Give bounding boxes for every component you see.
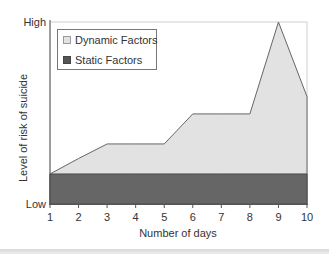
x-tick-label: 8 (247, 211, 253, 223)
legend: Dynamic Factors Static Factors (58, 30, 159, 70)
legend-label-static: Static Factors (75, 54, 143, 66)
legend-swatch-dynamic (64, 37, 71, 44)
risk-chart: 12345678910 High Low Number of days Leve… (0, 0, 329, 254)
x-tick-label: 7 (218, 211, 224, 223)
x-axis-label: Number of days (139, 227, 217, 239)
legend-label-dynamic: Dynamic Factors (75, 34, 158, 46)
y-tick-low: Low (26, 198, 46, 210)
x-tick-labels: 12345678910 (47, 211, 313, 223)
y-tick-high: High (23, 16, 46, 28)
static-factors-area (50, 174, 307, 204)
x-tick-label: 10 (301, 211, 313, 223)
x-tick-label: 2 (75, 211, 81, 223)
x-tick-label: 6 (190, 211, 196, 223)
x-tick-label: 1 (47, 211, 53, 223)
y-axis-label: Level of risk of suicide (17, 74, 29, 182)
legend-swatch-static (64, 57, 71, 64)
x-tick-label: 4 (133, 211, 139, 223)
x-tick-label: 5 (161, 211, 167, 223)
x-tick-label: 9 (275, 211, 281, 223)
x-tick-label: 3 (104, 211, 110, 223)
bottom-divider (0, 249, 329, 254)
